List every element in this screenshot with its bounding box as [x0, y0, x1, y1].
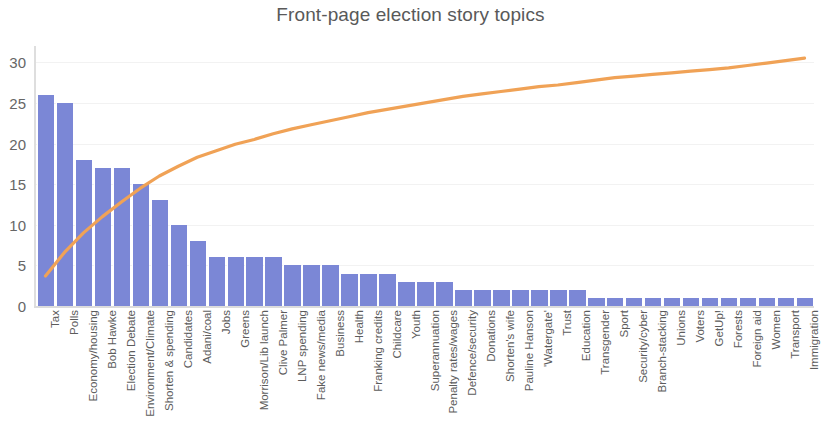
x-tick-label-text: Franking credits — [373, 310, 384, 392]
x-tick-label: Superannuation — [430, 310, 441, 391]
x-tick-label: Shorten & spending — [164, 310, 175, 411]
x-tick-label-text: Transgender — [600, 310, 611, 375]
plot-area — [36, 46, 814, 306]
x-tick-label: Jobs — [221, 310, 232, 334]
x-tick-label-text: Sport — [619, 310, 630, 338]
x-tick-label: Forests — [733, 310, 744, 348]
x-tick-label: Youth — [411, 310, 422, 339]
x-tick-label: Polls — [69, 310, 80, 335]
x-tick-label-text: Superannuation — [430, 310, 441, 391]
x-tick-label-text: Forests — [733, 310, 744, 348]
x-tick-label: Election Debate — [126, 310, 137, 391]
x-tick-label-text: Greens — [240, 310, 251, 348]
x-tick-label-text: Environment/Climate — [145, 310, 156, 417]
x-tick-label-text: Economy/housing — [88, 310, 99, 401]
x-tick-label-text: Branch-stacking — [657, 310, 668, 392]
x-tick-label: Candidates — [183, 310, 194, 368]
x-tick-label: Unions — [676, 310, 687, 346]
x-tick-label-text: Business — [335, 310, 346, 357]
x-tick-label-text: Donations — [486, 310, 497, 362]
x-tick-label-text: Pauline Hanson — [524, 310, 535, 391]
x-tick-label-text: Education — [581, 310, 592, 361]
x-tick-label-text: Foreign aid — [752, 310, 763, 368]
x-tick-label: Franking credits — [373, 310, 384, 392]
x-tick-label-text: Jobs — [221, 310, 232, 334]
x-tick-label-text: Clive Palmer — [278, 310, 289, 375]
x-tick-label: Shorten's wife — [505, 310, 516, 382]
x-tick-label: Immigration — [809, 310, 820, 370]
y-tick-label: 15 — [9, 176, 26, 193]
y-tick-label: 25 — [9, 94, 26, 111]
x-tick-label: Education — [581, 310, 592, 361]
x-tick-label-text: Security/cyber — [638, 310, 649, 383]
x-tick-label: Greens — [240, 310, 251, 348]
y-tick-label: 30 — [9, 54, 26, 71]
x-tick-label: 'Watergate' — [543, 310, 554, 367]
x-tick-label: Transport — [790, 310, 801, 359]
x-tick-label: Trust — [562, 310, 573, 336]
x-tick-label-text: Voters — [695, 310, 706, 343]
x-tick-label: Penalty rates/wages — [448, 310, 459, 414]
x-tick-label: Voters — [695, 310, 706, 343]
x-tick-label: Business — [335, 310, 346, 357]
x-tick-label-text: 'Watergate' — [543, 310, 554, 367]
cumulative-line-path — [45, 58, 804, 276]
y-tick-label: 10 — [9, 216, 26, 233]
x-tick-label: Pauline Hanson — [524, 310, 535, 391]
x-tick-label-text: Fake news/media — [316, 310, 327, 400]
x-tick-label-text: Unions — [676, 310, 687, 346]
chart-figure: Front-page election story topics 0510152… — [0, 0, 821, 448]
x-tick-label-text: Immigration — [809, 310, 820, 370]
x-tick-label: Health — [354, 310, 365, 343]
x-tick-label: GetUp! — [714, 310, 725, 346]
x-tick-label-text: Penalty rates/wages — [448, 310, 459, 414]
x-tick-label: Bob Hawke — [107, 310, 118, 369]
x-tick-label-text: Adani/coal — [202, 310, 213, 364]
x-tick-label-text: Trust — [562, 310, 573, 336]
x-tick-label: Morrison/Lib launch — [259, 310, 270, 410]
x-tick-label-text: Tax — [50, 310, 61, 328]
x-tick-label-text: GetUp! — [714, 310, 725, 346]
x-tick-label: Fake news/media — [316, 310, 327, 400]
x-tick-label: Tax — [50, 310, 61, 328]
x-tick-label-text: Morrison/Lib launch — [259, 310, 270, 410]
x-tick-label: Economy/housing — [88, 310, 99, 401]
x-tick-label-text: Women — [771, 310, 782, 349]
chart-title: Front-page election story topics — [0, 4, 821, 26]
x-tick-label: LNP spending — [297, 310, 308, 382]
x-tick-label-text: Shorten & spending — [164, 310, 175, 411]
x-tick-label-text: Childcare — [392, 310, 403, 359]
x-tick-label: Branch-stacking — [657, 310, 668, 392]
x-tick-label-text: LNP spending — [297, 310, 308, 382]
cumulative-line-series — [36, 46, 814, 306]
x-axis-category-labels: TaxPollsEconomy/housingBob HawkeElection… — [0, 308, 821, 448]
x-tick-label: Adani/coal — [202, 310, 213, 364]
x-tick-label-text: Election Debate — [126, 310, 137, 391]
x-tick-label-text: Shorten's wife — [505, 310, 516, 382]
x-tick-label-text: Youth — [411, 310, 422, 339]
x-tick-label: Foreign aid — [752, 310, 763, 368]
x-tick-label: Defence/security — [467, 310, 478, 396]
x-tick-label-text: Defence/security — [467, 310, 478, 396]
x-tick-label-text: Transport — [790, 310, 801, 359]
x-tick-label: Sport — [619, 310, 630, 338]
x-tick-label: Security/cyber — [638, 310, 649, 383]
x-tick-label: Clive Palmer — [278, 310, 289, 375]
x-tick-label: Environment/Climate — [145, 310, 156, 417]
x-tick-label-text: Bob Hawke — [107, 310, 118, 369]
x-tick-label: Donations — [486, 310, 497, 362]
x-tick-label: Childcare — [392, 310, 403, 359]
x-tick-label-text: Health — [354, 310, 365, 343]
x-tick-label: Transgender — [600, 310, 611, 375]
x-tick-label: Women — [771, 310, 782, 349]
x-tick-label-text: Polls — [69, 310, 80, 335]
y-tick-label: 20 — [9, 135, 26, 152]
y-tick-label: 5 — [18, 257, 26, 274]
x-tick-label-text: Candidates — [183, 310, 194, 368]
